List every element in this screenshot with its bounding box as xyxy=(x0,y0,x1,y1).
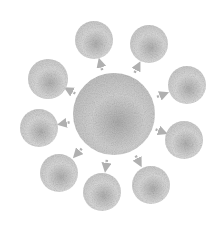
node-bottom-left xyxy=(40,154,78,192)
arrow-bottom-left xyxy=(76,149,81,155)
node-bottom-middle xyxy=(83,173,121,211)
node-left-upper xyxy=(28,59,68,99)
node-top-left xyxy=(75,21,113,59)
node-right-upper xyxy=(168,66,206,104)
arrow-bottom-middle xyxy=(106,160,107,168)
arrow-bottom-right xyxy=(136,156,140,163)
hub-spoke-diagram xyxy=(0,0,210,225)
hub-circle xyxy=(73,73,155,155)
node-right-lower xyxy=(165,121,203,159)
arrow-right-lower xyxy=(156,129,164,132)
arrow-left-upper xyxy=(68,90,75,94)
arrow-top-left xyxy=(100,63,102,71)
arrow-right-upper xyxy=(157,94,164,97)
hub-layer xyxy=(73,73,155,155)
node-left-middle xyxy=(20,109,58,147)
arrow-left-middle xyxy=(62,122,70,124)
node-bottom-right xyxy=(132,166,170,204)
node-top-right xyxy=(130,25,168,63)
arrow-top-right xyxy=(135,66,139,73)
